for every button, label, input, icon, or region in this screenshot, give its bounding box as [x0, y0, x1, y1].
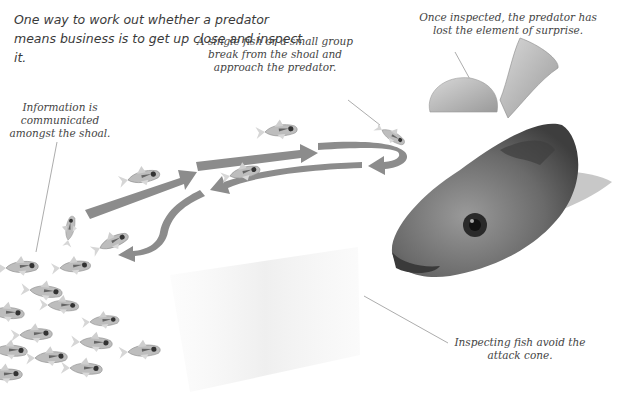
- inspecting-fish: [59, 118, 409, 260]
- inspection-path-arrows: [85, 142, 407, 262]
- diagram-canvas: [0, 0, 631, 396]
- tetra-shoal: [0, 254, 161, 384]
- predator-fish: [392, 38, 612, 277]
- attack-cone: [170, 247, 360, 392]
